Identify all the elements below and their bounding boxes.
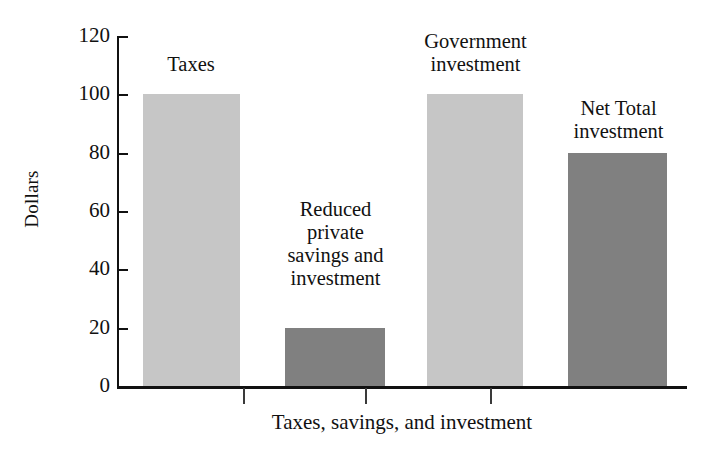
bar-taxes bbox=[143, 94, 240, 386]
bar-reduced-private-savings-and-investment bbox=[285, 328, 385, 386]
bar-label-taxes: Taxes bbox=[126, 53, 256, 76]
bar-government-investment bbox=[427, 94, 523, 386]
bar-label-reduced-private-savings-and-investment: Reduced private savings and investment bbox=[258, 198, 413, 290]
y-tick-label-80: 80 bbox=[55, 142, 110, 163]
bar-net-total-investment bbox=[568, 153, 667, 386]
x-tick-1 bbox=[243, 388, 245, 404]
x-axis-line bbox=[117, 386, 687, 389]
x-tick-2 bbox=[365, 388, 367, 404]
y-axis-title: Dollars bbox=[21, 139, 43, 259]
y-tick-label-120: 120 bbox=[43, 25, 110, 46]
y-tick-label-0: 0 bbox=[55, 375, 110, 396]
y-tick-40 bbox=[117, 269, 128, 271]
bar-label-government-investment: Government investment bbox=[398, 30, 553, 76]
y-tick-label-40: 40 bbox=[55, 258, 110, 279]
y-tick-label-20: 20 bbox=[55, 317, 110, 338]
y-tick-120 bbox=[117, 36, 128, 38]
y-tick-80 bbox=[117, 153, 128, 155]
bar-chart: Dollars 0 20 40 60 80 100 120 Taxes Redu… bbox=[0, 0, 719, 451]
x-tick-3 bbox=[490, 388, 492, 404]
y-tick-100 bbox=[117, 94, 128, 96]
bar-label-net-total-investment: Net Total investment bbox=[541, 97, 696, 143]
y-tick-label-60: 60 bbox=[55, 200, 110, 221]
y-tick-20 bbox=[117, 328, 128, 330]
x-axis-title: Taxes, savings, and investment bbox=[117, 410, 687, 435]
y-tick-60 bbox=[117, 211, 128, 213]
y-tick-label-100: 100 bbox=[43, 83, 110, 104]
